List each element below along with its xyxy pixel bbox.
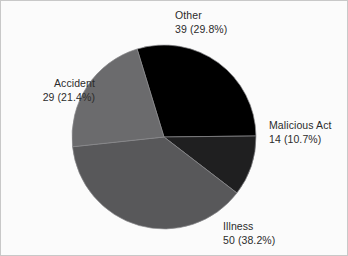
slice-label-other: Other 39 (29.8%) bbox=[175, 9, 227, 36]
pie-chart-figure: Other 39 (29.8%) Accident 29 (21.4%) Mal… bbox=[0, 0, 348, 256]
pie-slices-group bbox=[72, 45, 256, 229]
slice-label-illness: Illness 50 (38.2%) bbox=[223, 220, 275, 247]
slice-label-other-value: 39 (29.8%) bbox=[175, 23, 227, 37]
slice-label-accident-value: 29 (21.4%) bbox=[43, 91, 95, 105]
chart-plot-area: Other 39 (29.8%) Accident 29 (21.4%) Mal… bbox=[1, 1, 347, 255]
slice-label-other-name: Other bbox=[175, 9, 227, 23]
slice-label-accident: Accident 29 (21.4%) bbox=[43, 77, 95, 104]
slice-label-illness-value: 50 (38.2%) bbox=[223, 234, 275, 248]
slice-label-malicious-act-name: Malicious Act bbox=[269, 119, 332, 133]
slice-label-illness-name: Illness bbox=[223, 220, 275, 234]
slice-label-accident-name: Accident bbox=[43, 77, 95, 91]
slice-label-malicious-act-value: 14 (10.7%) bbox=[269, 133, 332, 147]
slice-label-malicious-act: Malicious Act 14 (10.7%) bbox=[269, 119, 332, 146]
